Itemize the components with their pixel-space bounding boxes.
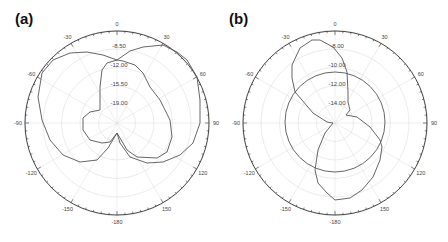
axis-tick [86, 37, 87, 39]
axis-tick [78, 40, 79, 42]
radial-tick-label: -12.00 [110, 62, 128, 68]
axis-tick [193, 77, 196, 79]
axis-tick [417, 84, 419, 85]
axis-tick [58, 53, 59, 55]
axis-tick [64, 197, 65, 199]
axis-tick [260, 175, 262, 176]
grid-spoke [335, 123, 381, 203]
axis-tick [37, 77, 40, 79]
angle-tick-label: 120 [198, 170, 207, 176]
axis-tick [420, 154, 422, 155]
axis-tick [282, 197, 283, 199]
axis-tick [366, 37, 367, 39]
grid-spoke [255, 123, 335, 169]
axis-tick [289, 43, 291, 46]
axis-tick [252, 161, 254, 162]
grid-spoke [37, 77, 117, 123]
axis-tick [409, 175, 411, 176]
angle-tick-label: 30 [163, 34, 169, 40]
axis-tick [155, 40, 156, 42]
axis-tick [181, 58, 182, 59]
axis-tick [42, 175, 44, 176]
angle-tick-label: -180 [329, 219, 340, 225]
angle-tick-label: -90 [232, 120, 240, 126]
axis-tick [393, 53, 394, 55]
angle-tick-label: -150 [280, 206, 291, 212]
axis-tick [393, 192, 394, 194]
axis-tick [249, 154, 251, 155]
axis-tick [175, 53, 176, 55]
axis-tick [255, 77, 258, 79]
axis-tick [191, 70, 193, 71]
axis-tick [296, 205, 297, 207]
radial-tick-label: -14.00 [328, 100, 346, 106]
axis-tick [409, 70, 411, 71]
axis-tick [31, 92, 33, 93]
axis-tick [404, 181, 406, 182]
angle-tick-label: 150 [380, 206, 389, 212]
axis-tick [71, 199, 73, 202]
axis-tick [199, 84, 201, 85]
axis-tick [52, 187, 53, 188]
angle-tick-label: 90 [213, 120, 219, 126]
axis-tick [255, 167, 258, 169]
axis-tick [34, 84, 36, 85]
polar-charts: 0306090120150-180-150-120-90-60-30-8.50-… [0, 0, 448, 242]
axis-tick [387, 48, 388, 50]
grid-spoke [117, 77, 197, 123]
axis-tick [58, 192, 59, 194]
angle-tick-label: -180 [111, 219, 122, 225]
axis-tick [202, 154, 204, 155]
angle-tick-label: -60 [27, 71, 35, 77]
axis-tick [373, 205, 374, 207]
grid-spoke [37, 123, 117, 169]
angle-tick-label: 90 [431, 120, 437, 126]
angle-tick-label: -150 [62, 206, 73, 212]
axis-tick [64, 48, 65, 50]
axis-tick [265, 181, 267, 182]
radial-tick-label: -8.50 [112, 43, 126, 49]
trace-inner [83, 60, 172, 158]
axis-tick [161, 199, 163, 202]
radial-tick-label: -12.00 [328, 81, 346, 87]
axis-tick [304, 208, 305, 210]
axis-tick [379, 199, 381, 202]
axis-tick [282, 48, 283, 50]
axis-tick [289, 199, 291, 202]
axis-tick [199, 161, 201, 162]
angle-tick-label: -30 [282, 34, 290, 40]
axis-tick [186, 64, 188, 65]
axis-tick [276, 192, 277, 194]
axis-tick [31, 154, 33, 155]
radial-tick-label: -19.00 [110, 100, 128, 106]
axis-tick [417, 161, 419, 162]
axis-tick [169, 197, 170, 199]
axis-tick [399, 187, 400, 188]
axis-tick [148, 37, 149, 39]
angle-tick-label: 60 [418, 71, 424, 77]
axis-tick [175, 192, 176, 194]
angle-tick-label: 60 [200, 71, 206, 77]
angle-tick-label: -120 [26, 170, 37, 176]
axis-tick [193, 167, 196, 169]
axis-tick [86, 208, 87, 210]
axis-tick [249, 92, 251, 93]
angle-tick-label: -30 [64, 34, 72, 40]
axis-tick [270, 58, 271, 59]
angle-tick-label: 30 [381, 34, 387, 40]
axis-tick [260, 70, 262, 71]
axis-tick [265, 64, 267, 65]
angle-tick-label: 150 [162, 206, 171, 212]
angle-tick-label: -90 [14, 120, 22, 126]
axis-tick [270, 187, 271, 188]
axis-tick [296, 40, 297, 42]
axis-tick [52, 58, 53, 59]
axis-tick [78, 205, 79, 207]
axis-tick [373, 40, 374, 42]
radial-tick-label: -8.00 [330, 43, 344, 49]
axis-tick [411, 77, 414, 79]
axis-tick [47, 181, 49, 182]
axis-tick [411, 167, 414, 169]
axis-tick [252, 84, 254, 85]
grid-spoke [289, 123, 335, 203]
